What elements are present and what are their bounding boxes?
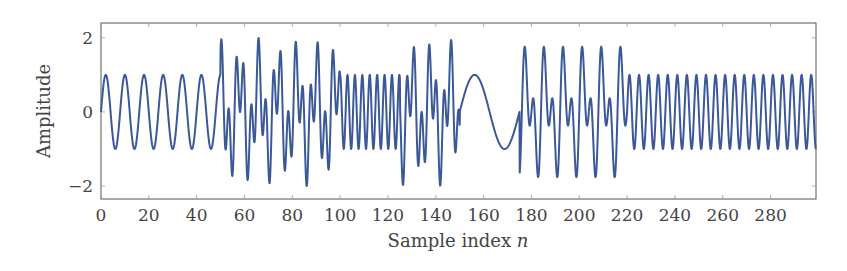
x-tick-label: 240 bbox=[659, 205, 691, 225]
y-tick-label: −2 bbox=[68, 176, 93, 196]
y-tick-label: 0 bbox=[82, 102, 93, 122]
plot-area bbox=[101, 23, 816, 199]
x-axis-title-text: Sample index bbox=[388, 230, 517, 251]
x-tick-label: 200 bbox=[563, 205, 595, 225]
x-tick-label: 0 bbox=[96, 205, 107, 225]
x-tick-label: 160 bbox=[467, 205, 499, 225]
x-tick-label: 60 bbox=[234, 205, 256, 225]
x-tick-label: 280 bbox=[754, 205, 786, 225]
x-tick-label: 80 bbox=[281, 205, 303, 225]
y-tick-label: 2 bbox=[82, 28, 93, 48]
x-tick-label: 140 bbox=[420, 205, 452, 225]
x-axis-tick-labels: 020406080100120140160180200220240260280 bbox=[96, 205, 787, 225]
x-tick-label: 180 bbox=[515, 205, 547, 225]
y-axis-tick-labels: 20−2 bbox=[68, 28, 93, 196]
x-axis-title-variable: n bbox=[517, 230, 529, 251]
y-axis-title: Amplitude bbox=[33, 64, 54, 159]
x-tick-label: 100 bbox=[324, 205, 356, 225]
x-axis-title: Sample index n bbox=[388, 230, 529, 251]
line-chart: 020406080100120140160180200220240260280 … bbox=[0, 0, 847, 271]
x-tick-label: 120 bbox=[372, 205, 404, 225]
x-tick-label: 220 bbox=[611, 205, 643, 225]
x-tick-label: 20 bbox=[138, 205, 160, 225]
x-tick-label: 40 bbox=[186, 205, 208, 225]
x-tick-label: 260 bbox=[707, 205, 739, 225]
